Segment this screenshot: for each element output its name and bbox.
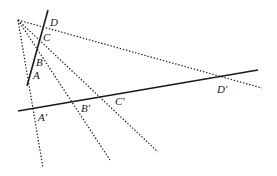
label-a: A <box>32 69 40 81</box>
label-b: B <box>36 56 43 68</box>
label-c-prime: C' <box>115 95 125 107</box>
label-a-prime: A' <box>37 111 48 123</box>
perspectivity-diagram: A B C D A' B' C' D' <box>0 0 277 176</box>
label-d-prime: D' <box>216 83 228 95</box>
ray-b <box>18 20 110 160</box>
label-d: D <box>49 16 58 28</box>
label-b-prime: B' <box>81 102 91 114</box>
ray-d <box>18 20 262 88</box>
label-c: C <box>43 31 51 43</box>
